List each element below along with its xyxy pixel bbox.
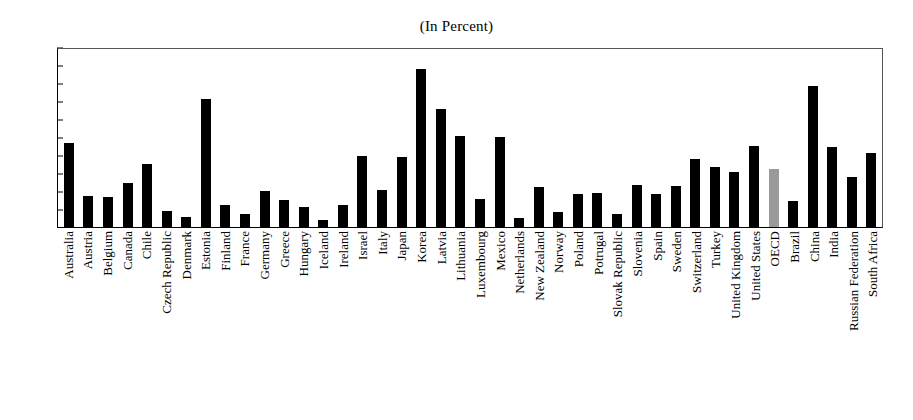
x-axis-tick-label: Netherlands <box>513 231 526 294</box>
bar-slot <box>118 49 138 227</box>
bar-slot <box>372 49 392 227</box>
x-axis-tick-label: Iceland <box>316 231 329 269</box>
x-axis-slot: Switzerland <box>686 231 706 416</box>
x-axis-slot: Iceland <box>313 231 333 416</box>
bar-hungary <box>299 207 309 227</box>
bar-south-africa <box>866 153 876 227</box>
x-axis-tick-label: Sweden <box>670 231 683 272</box>
bar-slot <box>607 49 627 227</box>
bar-slot <box>862 49 882 227</box>
x-axis-tick-label: Korea <box>415 231 428 263</box>
bar-korea <box>416 69 426 227</box>
x-axis-slot: Netherlands <box>509 231 529 416</box>
bar-slot <box>568 49 588 227</box>
x-axis-slot: New Zealand <box>529 231 549 416</box>
x-axis-slot: Ireland <box>333 231 353 416</box>
x-axis-slot: Potrugal <box>588 231 608 416</box>
bar-slot <box>627 49 647 227</box>
x-axis-slot: Latvia <box>431 231 451 416</box>
x-axis-slot: Brazil <box>784 231 804 416</box>
bar-slot <box>255 49 275 227</box>
x-axis-tick-label: India <box>827 231 840 258</box>
bar-spain <box>651 194 661 227</box>
x-axis-tick-label: Germany <box>258 231 271 279</box>
x-axis-slot: Australia <box>58 231 78 416</box>
bar-slot <box>333 49 353 227</box>
bar-slot <box>274 49 294 227</box>
x-axis-tick-label: Latvia <box>434 231 447 264</box>
bar-slot <box>588 49 608 227</box>
bar-germany <box>260 191 270 227</box>
x-axis-slot: Belgium <box>97 231 117 416</box>
x-axis-slot: Israel <box>352 231 372 416</box>
x-axis-tick-label: Russian Federation <box>846 231 859 331</box>
bar-india <box>827 147 837 227</box>
x-axis-tick-label: Austria <box>81 231 94 269</box>
bar-slot <box>490 49 510 227</box>
bar-slot <box>764 49 784 227</box>
x-axis-slot: Canada <box>117 231 137 416</box>
x-axis-tick-label: Switzerland <box>689 231 702 293</box>
bar-slot <box>235 49 255 227</box>
x-axis-tick-label: France <box>238 231 251 266</box>
x-axis-slot: South Africa <box>863 231 883 416</box>
x-axis-slot: Hungary <box>294 231 314 416</box>
bar-slot <box>666 49 686 227</box>
bar-latvia <box>436 109 446 227</box>
x-axis-tick-label: Norway <box>552 231 565 273</box>
x-axis-slot: France <box>235 231 255 416</box>
plot-area <box>57 48 883 228</box>
bar-norway <box>553 212 563 227</box>
chart-title: (In Percent) <box>0 18 913 35</box>
bar-iceland <box>318 220 328 227</box>
x-axis-tick-label: Greece <box>277 231 290 268</box>
bar-oecd <box>769 169 779 227</box>
bar-slot <box>470 49 490 227</box>
x-axis: AustraliaAustriaBelgiumCanadaChileCzech … <box>57 231 883 416</box>
x-axis-tick-label: Spain <box>650 231 663 261</box>
bar-greece <box>279 200 289 227</box>
bar-luxembourg <box>475 199 485 227</box>
bars-layer <box>58 49 882 227</box>
bar-brazil <box>788 201 798 227</box>
x-axis-tick-label: Chile <box>140 231 153 259</box>
y-axis: 05101520253035404550 <box>0 0 57 420</box>
bar-canada <box>123 183 133 227</box>
bar-poland <box>573 194 583 227</box>
x-axis-tick-label: Slovenia <box>630 231 643 277</box>
x-axis-slot: United States <box>745 231 765 416</box>
x-axis-slot: United Kingdom <box>725 231 745 416</box>
bar-slot <box>79 49 99 227</box>
x-axis-slot: Slovak Republic <box>608 231 628 416</box>
chart-figure: (In Percent) 05101520253035404550 Austra… <box>0 0 913 420</box>
bar-slot <box>686 49 706 227</box>
x-axis-tick-label: Brazil <box>787 231 800 263</box>
x-axis-slot: Estonia <box>195 231 215 416</box>
x-axis-tick-label: Lithuania <box>454 231 467 281</box>
bar-slot <box>294 49 314 227</box>
bar-slot <box>744 49 764 227</box>
bar-estonia <box>201 99 211 227</box>
bar-slot <box>411 49 431 227</box>
bar-turkey <box>710 167 720 227</box>
bar-potrugal <box>592 193 602 227</box>
bar-slot <box>705 49 725 227</box>
x-axis-tick-label: China <box>807 231 820 262</box>
x-axis-slot: Slovenia <box>627 231 647 416</box>
x-axis-tick-label: Canada <box>120 231 133 270</box>
x-axis-tick-label: Israel <box>356 231 369 260</box>
x-axis-slot: Turkey <box>706 231 726 416</box>
x-axis-slot: Chile <box>137 231 157 416</box>
bar-slot <box>98 49 118 227</box>
x-axis-slot: OECD <box>765 231 785 416</box>
bar-slot <box>842 49 862 227</box>
x-axis-slot: Sweden <box>666 231 686 416</box>
bar-australia <box>64 143 74 227</box>
bar-switzerland <box>690 159 700 227</box>
bar-slot <box>783 49 803 227</box>
bar-slot <box>353 49 373 227</box>
bar-slot <box>646 49 666 227</box>
x-axis-slot: Austria <box>78 231 98 416</box>
bar-denmark <box>181 217 191 227</box>
bar-china <box>808 86 818 227</box>
